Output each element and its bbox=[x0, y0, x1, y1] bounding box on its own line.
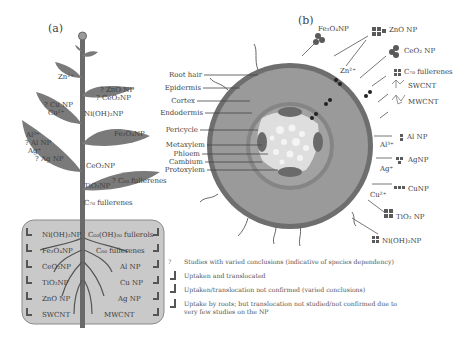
root-label-right: Ag NP bbox=[118, 295, 141, 303]
np-label: Ni(OH)₂NP bbox=[382, 238, 421, 245]
np-label: Al³⁺ bbox=[380, 142, 394, 149]
root-label-left: ZnO NP bbox=[42, 295, 70, 303]
legend-item: Uptaken/translocation not confirmed (var… bbox=[184, 286, 365, 293]
np-label: C₇₀ fullerenes bbox=[404, 69, 453, 76]
legend-item: Uptake by roots; but translocation not s… bbox=[184, 300, 397, 307]
root-label-left: SWCNT bbox=[42, 311, 70, 319]
tissue-label-protoxylem: Protoxylem bbox=[165, 166, 205, 174]
leaf-label: Al³⁺ bbox=[26, 132, 40, 139]
leaf-label: ? CeO₂NP bbox=[96, 95, 131, 102]
leaf-label: ? Ag NP bbox=[35, 156, 64, 163]
tissue-label-cambium: Cambium bbox=[169, 158, 203, 166]
root-label-left: TiO₂NP bbox=[42, 279, 68, 287]
root-label-right: Al NP bbox=[120, 263, 140, 271]
np-label: TiO₂ NP bbox=[396, 214, 425, 221]
leaf-label: ? ZnO NP bbox=[100, 87, 134, 94]
tissue-label-pericycle: Pericycle bbox=[166, 126, 198, 134]
root-label-right: C₆₀ fullerenes bbox=[96, 247, 145, 255]
root-label-left: Fe₃O₄NP bbox=[42, 247, 73, 255]
legend-item-continued: very few studies on the NP bbox=[184, 308, 269, 315]
tissue-label-cortex: Cortex bbox=[171, 97, 195, 105]
np-label: ZnO NP bbox=[389, 27, 417, 34]
leaf-label: ? Al NP bbox=[25, 140, 51, 147]
leaf-label: Cu²⁺ bbox=[48, 110, 64, 117]
tissue-label-endodermis: Endodermis bbox=[160, 109, 203, 117]
tissue-label-epidermis: Epidermis bbox=[165, 84, 201, 92]
cnt-icons bbox=[392, 80, 405, 104]
root-label-left: CeO₂NP bbox=[42, 263, 71, 271]
root-label-right: MWCNT bbox=[104, 311, 135, 319]
flower-bud-icon bbox=[79, 32, 87, 40]
tissue-label-phloem: Phloem bbox=[174, 150, 200, 158]
stem-label: C₇₀ fullerenes bbox=[84, 200, 133, 207]
leaf-label: Zn²⁺ bbox=[58, 74, 74, 81]
stem-label: CeO₂NP bbox=[86, 163, 115, 170]
np-label: Fe₃O₄NP bbox=[318, 26, 349, 33]
legend-icons bbox=[170, 271, 176, 308]
tissue-label-metaxylem: Metaxylem bbox=[166, 141, 205, 149]
np-label: Cu²⁺ bbox=[370, 192, 386, 199]
leaf-label: Fe₃O₄NP bbox=[114, 131, 145, 138]
tissue-label-root-hair: Root hair bbox=[169, 71, 202, 79]
leaf-label: Ag⁺ bbox=[28, 148, 41, 155]
legend-item: Uptaken and translocated bbox=[184, 272, 266, 279]
np-label: CuNP bbox=[408, 186, 429, 193]
stem-label: Ni(OH)₂NP bbox=[84, 111, 123, 118]
leaf-label: ? Cu NP bbox=[44, 102, 73, 109]
leaf-label: ? C₆₀ fullerenes bbox=[112, 178, 167, 185]
np-label: CeO₂ NP bbox=[404, 48, 435, 55]
legend-item: Studies with varied conclusions (indicat… bbox=[184, 258, 394, 265]
np-label: Zn²⁺ bbox=[340, 68, 356, 75]
panel-b-label: (b) bbox=[298, 14, 314, 27]
np-label: SWCNT bbox=[408, 83, 436, 90]
np-label: AgNP bbox=[408, 157, 428, 164]
root-label-right: C₆₀(OH)₂₀ fullerols bbox=[88, 231, 153, 239]
stem-label: TiO₂NP bbox=[84, 183, 110, 190]
np-label: MWCNT bbox=[408, 99, 439, 106]
np-label: Ag⁺ bbox=[380, 166, 393, 173]
root-label-left: Ni(OH)₂NP bbox=[42, 231, 81, 239]
root-label-right: Cu NP bbox=[120, 279, 143, 287]
question-mark-icon: ? bbox=[168, 258, 171, 265]
np-label: Al NP bbox=[407, 134, 427, 141]
